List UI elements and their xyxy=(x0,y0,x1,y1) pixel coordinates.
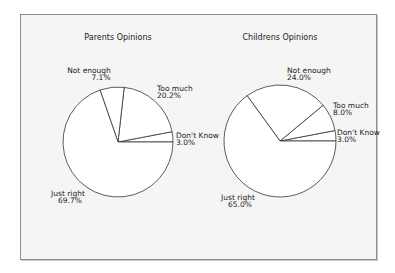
chart-title-parents: Parents Opinions xyxy=(84,33,151,42)
slice-pct-just-right: 65.0% xyxy=(228,200,252,209)
slice-pct-too-much: 20.2% xyxy=(157,91,181,100)
slice-pct-dont-know: 3.0% xyxy=(337,135,356,144)
slice-pct-not-enough: 7.1% xyxy=(91,73,110,82)
pie-childrens: Childrens Opinions Not enough 24.0% Too … xyxy=(220,33,380,209)
pie-slices-childrens xyxy=(224,85,336,197)
slice-pct-too-much: 8.0% xyxy=(333,108,352,117)
slice-pct-not-enough: 24.0% xyxy=(287,73,311,82)
chart-title-childrens: Childrens Opinions xyxy=(242,33,317,42)
pie-slices-parents xyxy=(63,87,173,197)
pie-parents: Parents Opinions Not enough 7.1% Too muc… xyxy=(50,33,219,205)
pie-charts: Parents Opinions Not enough 7.1% Too muc… xyxy=(0,0,395,273)
slice-pct-dont-know: 3.0% xyxy=(176,138,195,147)
slice-pct-just-right: 69.7% xyxy=(58,196,82,205)
